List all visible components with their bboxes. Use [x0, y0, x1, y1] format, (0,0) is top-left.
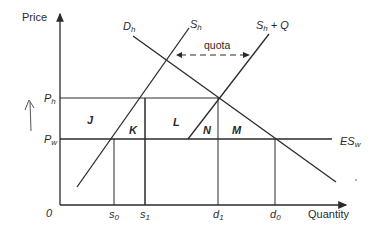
quota-arrow-head-left — [176, 52, 182, 58]
demand-curve — [133, 36, 336, 182]
d1-label: d1 — [213, 208, 224, 222]
area-l-label: L — [173, 116, 180, 128]
area-k-label: K — [129, 124, 138, 136]
import-quota-diagram: Price Quantity 0 Ph Pw s0 s1 d1 d0 Dh Sh… — [0, 0, 376, 234]
supply-plus-quota-label: Sh + Q — [256, 19, 289, 33]
es-w-label: ESw — [340, 135, 362, 149]
pw-label: Pw — [44, 133, 58, 147]
s0-label: s0 — [109, 208, 120, 222]
origin-label: 0 — [46, 207, 53, 219]
y-axis-label: Price — [22, 11, 47, 23]
demand-label: Dh — [123, 20, 136, 34]
ph-label: Ph — [44, 92, 56, 106]
quota-label: quota — [204, 39, 230, 51]
d0-label: d0 — [270, 208, 281, 222]
supply-curve — [77, 28, 189, 187]
area-n-label: N — [203, 124, 212, 136]
area-j-label: J — [87, 114, 94, 126]
area-m-label: M — [232, 124, 242, 136]
stray-dot — [355, 179, 357, 181]
s1-label: s1 — [140, 208, 150, 222]
x-axis-label: Quantity — [308, 208, 349, 220]
handwritten-arrow-mark — [25, 100, 34, 131]
supply-label: Sh — [190, 18, 202, 32]
